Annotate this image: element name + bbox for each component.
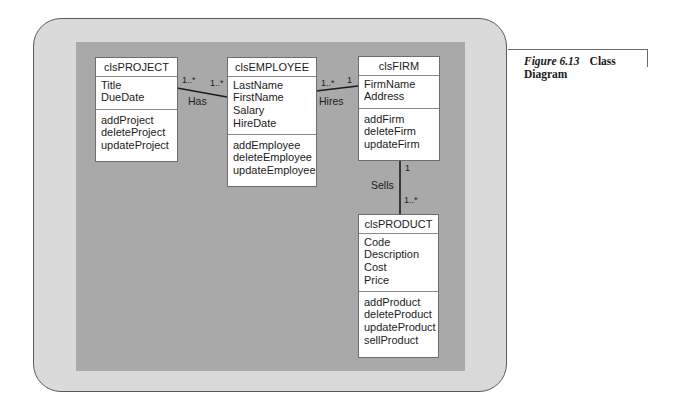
- attribute: DueDate: [101, 91, 173, 104]
- operation: addFirm: [364, 113, 435, 126]
- class-name: clsFIRM: [359, 57, 439, 76]
- class-box-product: clsPRODUCT Code Description Cost Price a…: [358, 214, 439, 358]
- class-attributes: Code Description Cost Price: [359, 234, 438, 292]
- attribute: Title: [101, 79, 173, 92]
- operation: deleteProject: [101, 126, 173, 139]
- operation: deleteEmployee: [233, 151, 312, 164]
- class-box-employee: clsEMPLOYEE LastName FirstName Salary Hi…: [227, 57, 317, 187]
- class-box-firm: clsFIRM FirmName Address addFirm deleteF…: [358, 56, 440, 161]
- operation: addProject: [101, 114, 173, 127]
- class-attributes: FirmName Address: [359, 76, 439, 109]
- class-operations: addFirm deleteFirm updateFirm: [359, 109, 439, 155]
- figure-label: Figure 6.13: [524, 55, 580, 67]
- hires-multiplicity-firm: 1: [347, 75, 352, 85]
- attribute: Price: [364, 274, 434, 287]
- operation: sellProduct: [364, 334, 434, 347]
- operation: addEmployee: [233, 139, 312, 152]
- has-multiplicity-employee: 1..*: [210, 78, 224, 88]
- sells-association-label: Sells: [371, 179, 394, 191]
- operation: updateEmployee: [233, 164, 312, 177]
- attribute: Code: [364, 236, 434, 249]
- class-name: clsPRODUCT: [359, 215, 438, 234]
- attribute: Salary: [233, 104, 312, 117]
- operation: updateProduct: [364, 321, 434, 334]
- figure-title-line1: Class: [590, 55, 616, 67]
- class-name: clsEMPLOYEE: [228, 58, 316, 77]
- figure-caption: Figure 6.13Class Diagram: [524, 55, 654, 81]
- operation: deleteFirm: [364, 125, 435, 138]
- operation: updateFirm: [364, 138, 435, 151]
- class-attributes: Title DueDate: [96, 77, 177, 110]
- class-operations: addEmployee deleteEmployee updateEmploye…: [228, 135, 316, 181]
- has-multiplicity-project: 1..*: [182, 75, 196, 85]
- figure-title-line2: Diagram: [524, 68, 567, 80]
- caption-rule: [508, 49, 648, 50]
- hires-association-label: Hires: [319, 95, 344, 107]
- has-association-label: Has: [188, 95, 207, 107]
- class-box-project: clsPROJECT Title DueDate addProject dele…: [95, 57, 178, 162]
- operation: addProduct: [364, 296, 434, 309]
- attribute: HireDate: [233, 117, 312, 130]
- attribute: Cost: [364, 261, 434, 274]
- attribute: Address: [364, 90, 435, 103]
- class-attributes: LastName FirstName Salary HireDate: [228, 77, 316, 135]
- class-operations: addProject deleteProject updateProject: [96, 110, 177, 156]
- operation: deleteProduct: [364, 308, 434, 321]
- attribute: Description: [364, 248, 434, 261]
- attribute: FirstName: [233, 91, 312, 104]
- class-operations: addProduct deleteProduct updateProduct s…: [359, 292, 438, 351]
- sells-multiplicity-firm: 1: [405, 163, 410, 173]
- attribute: FirmName: [364, 78, 435, 91]
- class-name: clsPROJECT: [96, 58, 177, 77]
- sells-multiplicity-product: 1..*: [404, 195, 418, 205]
- operation: updateProject: [101, 139, 173, 152]
- attribute: LastName: [233, 79, 312, 92]
- hires-multiplicity-employee: 1..*: [321, 78, 335, 88]
